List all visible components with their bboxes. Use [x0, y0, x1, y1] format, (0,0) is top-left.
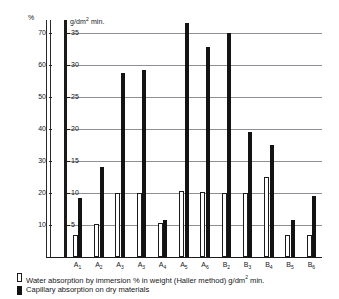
left-tick-label: 30 — [26, 157, 46, 164]
bar-water-absorption — [158, 223, 163, 257]
category-label-subscript: 3 — [249, 264, 252, 270]
plot-area — [67, 20, 322, 257]
left-tick-label: 10 — [26, 221, 46, 228]
bar-water-absorption — [200, 192, 205, 257]
legend-item-capillary-absorption: Capillary absorption on dry materials — [17, 285, 333, 298]
left-tick-label: 40 — [26, 125, 46, 132]
left-tick-mark — [49, 97, 52, 98]
category-label-subscript: 2 — [100, 264, 103, 270]
bar-capillary-absorption — [312, 196, 316, 257]
category-label-subscript: 1 — [79, 264, 82, 270]
bar-water-absorption — [222, 193, 227, 257]
left-tick-label: 20 — [26, 189, 46, 196]
legend-label-capillary-absorption: Capillary absorption on dry materials — [26, 285, 149, 295]
left-tick-mark — [49, 193, 52, 194]
bar-water-absorption — [179, 191, 184, 257]
legend-item-water-absorption: Water absorption by immersion % in weigh… — [17, 272, 333, 285]
category-label-subscript: 4 — [270, 264, 273, 270]
bar-water-absorption — [94, 224, 99, 257]
left-tick-mark — [49, 161, 52, 162]
bar-water-absorption — [115, 193, 120, 257]
bar-water-absorption — [243, 193, 248, 257]
left-tick-mark — [49, 33, 52, 34]
bar-capillary-absorption — [78, 198, 82, 257]
bar-capillary-absorption — [185, 23, 189, 257]
bar-capillary-absorption — [100, 167, 104, 257]
category-label-subscript: 6 — [206, 264, 209, 270]
category-label-subscript: 6 — [312, 264, 315, 270]
category-label-subscript: 3 — [142, 264, 145, 270]
left-tick-label: 50 — [26, 93, 46, 100]
bar-water-absorption — [73, 235, 78, 257]
bar-water-absorption — [264, 177, 269, 257]
chart-figure: % g/dm2 min. 10203040506070 510152025303… — [0, 0, 339, 299]
left-axis-unit-label: % — [28, 14, 34, 21]
bar-capillary-absorption — [163, 220, 167, 257]
bar-capillary-absorption — [121, 73, 125, 258]
legend-swatch-black-bar-icon — [17, 286, 22, 295]
category-label: B6 — [298, 261, 324, 270]
bar-water-absorption — [137, 193, 142, 257]
bar-capillary-absorption — [227, 33, 231, 257]
bar-capillary-absorption — [291, 220, 295, 257]
left-tick-mark — [49, 225, 52, 226]
category-label-subscript: 3 — [121, 264, 124, 270]
x-axis-baseline — [46, 257, 322, 258]
category-label-subscript: 5 — [185, 264, 188, 270]
bar-capillary-absorption — [206, 47, 210, 257]
left-tick-mark — [49, 65, 52, 66]
left-tick-label: 70 — [26, 29, 46, 36]
bar-capillary-absorption — [270, 145, 274, 257]
chart-legend: Water absorption by immersion % in weigh… — [17, 272, 333, 298]
legend-swatch-white-bar-icon — [17, 273, 22, 282]
category-label-subscript: 4 — [164, 264, 167, 270]
legend-label-water-absorption: Water absorption by immersion % in weigh… — [26, 272, 264, 286]
left-axis-spine — [46, 20, 51, 257]
bar-capillary-absorption — [142, 70, 146, 257]
bar-water-absorption — [307, 235, 312, 257]
left-tick-label: 60 — [26, 61, 46, 68]
bar-capillary-absorption — [248, 132, 252, 257]
bar-water-absorption — [285, 235, 290, 257]
category-label-subscript: 5 — [291, 264, 294, 270]
left-tick-mark — [49, 129, 52, 130]
category-label-subscript: 2 — [227, 264, 230, 270]
